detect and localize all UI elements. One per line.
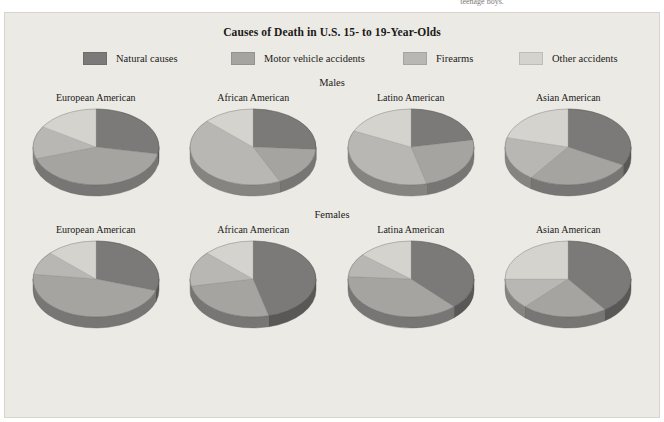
legend-label-natural-causes: Natural causes: [116, 53, 178, 64]
pie-cell: European American: [21, 224, 171, 329]
pie-top-face: [33, 109, 159, 185]
legend-item-motor-vehicle-accidents: Motor vehicle accidents: [231, 52, 403, 65]
pie-cell: African American: [178, 92, 328, 197]
legend-swatch-firearms: [403, 52, 427, 65]
pie-top-face: [190, 109, 316, 185]
figure-title: Causes of Death in U.S. 15- to 19-Year-O…: [5, 26, 659, 38]
group-label-females: Females: [5, 209, 659, 220]
pie-chart: [21, 105, 171, 197]
legend-item-natural-causes: Natural causes: [83, 52, 231, 65]
pie-slice: [253, 109, 316, 149]
pie-caption: Asian American: [493, 92, 643, 103]
page-cutoff-text: teenage boys.: [0, 0, 664, 9]
legend-item-firearms: Firearms: [403, 52, 519, 65]
pie-top-face: [505, 241, 631, 317]
cutoff-text-fragment: teenage boys.: [460, 0, 504, 6]
pie-caption: Latino American: [336, 92, 486, 103]
legend-label-other-accidents: Other accidents: [552, 53, 618, 64]
pie-chart: [21, 237, 171, 329]
pie-caption: Asian American: [493, 224, 643, 235]
pie-chart: [336, 105, 486, 197]
pie-cell: Asian American: [493, 224, 643, 329]
legend-label-firearms: Firearms: [436, 53, 473, 64]
pie-row-males: European AmericanAfrican AmericanLatino …: [5, 92, 659, 197]
legend: Natural causes Motor vehicle accidents F…: [5, 52, 659, 65]
pie-caption: African American: [178, 224, 328, 235]
pie-cell: Asian American: [493, 92, 643, 197]
pie-top-face: [505, 109, 631, 185]
pie-chart: [493, 237, 643, 329]
legend-swatch-motor-vehicle-accidents: [231, 52, 255, 65]
pie-chart: [493, 105, 643, 197]
pie-cell: African American: [178, 224, 328, 329]
pie-cell: Latina American: [336, 224, 486, 329]
pie-slice: [96, 109, 159, 154]
legend-swatch-natural-causes: [83, 52, 107, 65]
legend-item-other-accidents: Other accidents: [519, 52, 659, 65]
pie-cell: Latino American: [336, 92, 486, 197]
pie-caption: African American: [178, 92, 328, 103]
figure-panel: Causes of Death in U.S. 15- to 19-Year-O…: [4, 12, 660, 418]
legend-swatch-other-accidents: [519, 52, 543, 65]
pie-caption: Latina American: [336, 224, 486, 235]
legend-label-motor-vehicle-accidents: Motor vehicle accidents: [264, 53, 365, 64]
pie-caption: European American: [21, 224, 171, 235]
pie-cell: European American: [21, 92, 171, 197]
pie-chart: [178, 105, 328, 197]
pie-slice: [505, 241, 568, 279]
pie-chart: [178, 237, 328, 329]
pie-top-face: [348, 241, 474, 317]
pie-top-face: [190, 241, 316, 317]
pie-row-females: European AmericanAfrican AmericanLatina …: [5, 224, 659, 329]
pie-chart: [336, 237, 486, 329]
pie-top-face: [33, 241, 159, 317]
pie-caption: European American: [21, 92, 171, 103]
group-label-males: Males: [5, 77, 659, 88]
pie-top-face: [348, 109, 474, 185]
